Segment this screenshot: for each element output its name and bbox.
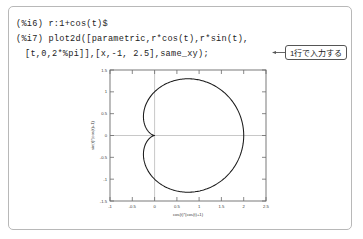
ytick-label: -0.5 — [100, 155, 108, 160]
console-line-i7-continued: [t,0,2*%pi]],[x,-1, 2.5],same_xy); — [25, 49, 209, 60]
arrow-left-icon — [272, 51, 285, 54]
ytick-label: -1.5 — [100, 199, 108, 204]
annotation-callout: 1行で入力する — [285, 45, 347, 60]
ytick-label: -1 — [103, 177, 107, 182]
console-line-i6: (%i6) r:1+cos(t)$ — [16, 19, 108, 30]
ytick-label: 1 — [105, 89, 108, 94]
ytick-label: 0 — [105, 133, 108, 138]
xtick-label: 2.5 — [263, 204, 269, 209]
ytick-label: 0.5 — [101, 111, 107, 116]
figure-root: (%i6) r:1+cos(t)$ (%i7) plot2d([parametr… — [0, 0, 363, 239]
xtick-label: 1 — [198, 204, 201, 209]
xtick-label: -1 — [108, 204, 112, 209]
console-line-i7: (%i7) plot2d([parametric,r*cos(t),r*sin(… — [16, 34, 249, 45]
x-axis-title: cos(t)*(cos(t)+1) — [173, 212, 204, 217]
xtick-label: 1.5 — [218, 204, 224, 209]
xtick-label: 0 — [153, 204, 156, 209]
cardioid-plot-svg: 1.5 1 0.5 0 -0.5 -1 -1.5 -1 -0.5 0 0.5 1… — [84, 60, 280, 225]
xtick-label: -0.5 — [129, 204, 137, 209]
plot-figure: 1.5 1 0.5 0 -0.5 -1 -1.5 -1 -0.5 0 0.5 1… — [84, 60, 280, 225]
xtick-label: 2 — [243, 204, 246, 209]
y-axis-title: sin(t)*(cos(t)+1) — [90, 120, 95, 150]
ytick-label: 1.5 — [101, 68, 107, 73]
xtick-label: 0.5 — [174, 204, 180, 209]
